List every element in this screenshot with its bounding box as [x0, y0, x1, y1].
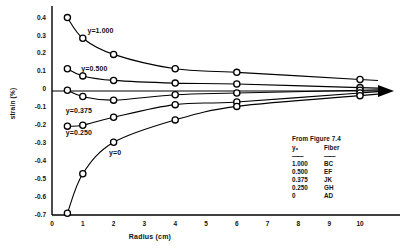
legend-row: 0AD	[292, 192, 350, 200]
legend-table: y₀ Fiber —— ——	[292, 144, 350, 160]
data-point-marker	[111, 77, 117, 83]
data-point-marker	[80, 93, 86, 99]
x-tick-label: 9	[319, 220, 339, 227]
legend-row: 0.375JK	[292, 176, 350, 184]
data-point-marker	[64, 210, 70, 216]
data-point-marker	[64, 87, 70, 93]
y-tick-label: 0	[18, 85, 46, 92]
curve-label: y=1.000	[87, 27, 113, 34]
legend-y0-value: 0.250	[292, 184, 324, 192]
data-point-marker	[357, 76, 363, 82]
data-point-marker	[64, 14, 70, 20]
data-point-marker	[234, 69, 240, 75]
data-point-marker	[357, 93, 363, 99]
legend-rule-y0: ——	[292, 152, 324, 160]
data-point-marker	[111, 139, 117, 145]
legend-y0-value: 0.500	[292, 168, 324, 176]
y-tick-label: -0.6	[18, 193, 46, 200]
data-point-marker	[64, 66, 70, 72]
data-point-marker	[234, 103, 240, 109]
legend-y0-value: 0.375	[292, 176, 324, 184]
x-axis-label: Radius (cm)	[0, 233, 300, 240]
curve-label: y=0.375	[66, 107, 92, 114]
y-tick-label: -0.4	[18, 157, 46, 164]
data-point-marker	[172, 117, 178, 123]
legend-title: From Figure 7.4	[292, 135, 350, 142]
data-point-marker	[111, 114, 117, 120]
y-tick-label: -0.5	[18, 175, 46, 182]
y-tick-label: 0.2	[18, 49, 46, 56]
y-tick-label: -0.2	[18, 121, 46, 128]
legend-rule-fiber: ——	[324, 152, 350, 160]
legend-row: 0.250GH	[292, 184, 350, 192]
legend-fiber-value: EF	[324, 168, 350, 176]
zero-line-arrow-icon	[378, 85, 394, 97]
legend-row: 1.000BC	[292, 160, 350, 168]
data-point-marker	[172, 80, 178, 86]
legend-row: 0.500EF	[292, 168, 350, 176]
legend-y0-value: 0	[292, 192, 324, 200]
x-tick-label: 8	[288, 220, 308, 227]
x-tick-label: 10	[350, 220, 370, 227]
legend: From Figure 7.4 y₀ Fiber —— —— 1.000BC0.…	[292, 135, 350, 200]
y-tick-label: -0.1	[18, 103, 46, 110]
x-tick-label: 4	[165, 220, 185, 227]
figure-chart: strain (%) Radius (cm) 0.40.30.20.10-0.1…	[0, 0, 403, 249]
data-point-marker	[234, 90, 240, 96]
y-tick-label: 0.4	[18, 14, 46, 21]
x-tick-label: 7	[258, 220, 278, 227]
data-point-marker	[111, 97, 117, 103]
data-point-marker	[80, 122, 86, 128]
data-point-marker	[80, 73, 86, 79]
curve-label: y=0.250	[66, 129, 92, 136]
data-point-marker	[172, 102, 178, 108]
data-point-marker	[172, 92, 178, 98]
x-tick-label: 6	[227, 220, 247, 227]
data-point-marker	[111, 51, 117, 57]
y-tick-label: -0.7	[18, 211, 46, 218]
x-tick-label: 2	[104, 220, 124, 227]
legend-col-fiber: Fiber	[324, 144, 350, 152]
x-tick-label: 3	[134, 220, 154, 227]
legend-col-y0: y₀	[292, 144, 324, 152]
legend-y0-value: 1.000	[292, 160, 324, 168]
data-point-marker	[234, 81, 240, 87]
x-tick-label: 0	[42, 220, 62, 227]
x-tick-label: 5	[196, 220, 216, 227]
data-point-marker	[80, 171, 86, 177]
y-tick-label: 0.3	[18, 32, 46, 39]
y-tick-label: -0.3	[18, 139, 46, 146]
data-point-marker	[80, 35, 86, 41]
curve-y-1-000	[64, 14, 378, 82]
legend-fiber-value: AD	[324, 192, 350, 200]
y-tick-label: 0.1	[18, 67, 46, 74]
legend-header-row: y₀ Fiber	[292, 144, 350, 152]
chart-canvas	[0, 0, 403, 249]
legend-fiber-value: JK	[324, 176, 350, 184]
legend-body: 1.000BC0.500EF0.375JK0.250GH0AD	[292, 160, 350, 200]
legend-fiber-value: BC	[324, 160, 350, 168]
legend-rule-row: —— ——	[292, 152, 350, 160]
curve-label: y=0	[109, 149, 121, 156]
data-point-marker	[172, 66, 178, 72]
y-axis-label: strain (%)	[9, 74, 16, 134]
legend-fiber-value: GH	[324, 184, 350, 192]
x-tick-label: 1	[73, 220, 93, 227]
curve-y-0-250	[64, 90, 378, 129]
curve-label: y=0.500	[81, 65, 107, 72]
